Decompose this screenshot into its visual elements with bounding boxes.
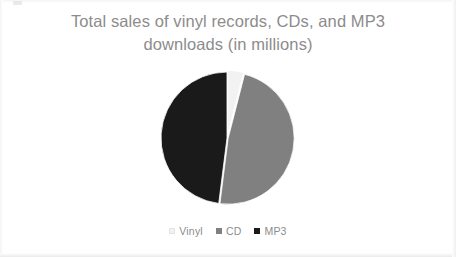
legend-label: CD	[226, 225, 242, 237]
scan-artifact	[13, 1, 22, 5]
pie-slice-mp3	[161, 72, 227, 203]
chart-title: Total sales of vinyl records, CDs, and M…	[38, 10, 418, 56]
legend-swatch-icon	[216, 228, 222, 234]
legend-item-vinyl: Vinyl	[169, 225, 203, 237]
legend-label: MP3	[264, 225, 286, 237]
legend-item-mp3: MP3	[254, 225, 286, 237]
chart-legend: VinylCDMP3	[0, 225, 456, 237]
legend-swatch-icon	[169, 228, 175, 234]
pie-plot-area	[0, 62, 456, 217]
page-edge-bottom	[0, 253, 456, 257]
legend-label: Vinyl	[179, 225, 203, 237]
page-edge-top	[0, 0, 456, 3]
chart-image: Total sales of vinyl records, CDs, and M…	[0, 0, 456, 257]
pie-chart	[151, 62, 303, 214]
legend-item-cd: CD	[216, 225, 242, 237]
legend-swatch-icon	[254, 228, 260, 234]
pie-slice-group	[161, 70, 294, 204]
